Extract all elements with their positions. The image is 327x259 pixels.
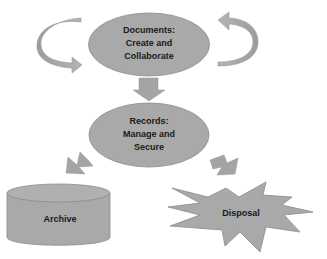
disposal-node: Disposal <box>168 182 313 252</box>
archive-node: Archive <box>7 184 110 245</box>
records-label-line3: Secure <box>134 142 164 152</box>
records-node: Records: Manage and Secure <box>89 103 209 167</box>
documents-node: Documents: Create and Collaborate <box>89 13 210 76</box>
curved-arrow-right-icon <box>218 12 258 66</box>
documents-label-line2: Create and <box>126 38 173 48</box>
curved-arrow-left-icon <box>37 18 82 73</box>
archive-label: Archive <box>43 214 76 224</box>
arrow-down-icon <box>133 78 165 101</box>
records-label-line2: Manage and <box>123 129 175 139</box>
documents-label-line1: Documents: <box>123 25 175 35</box>
arrow-down-left-icon <box>66 152 93 174</box>
documents-label-line3: Collaborate <box>124 51 174 61</box>
records-lifecycle-diagram: Documents: Create and Collaborate Record… <box>0 0 327 259</box>
records-label-line1: Records: <box>129 116 168 126</box>
disposal-label: Disposal <box>222 208 260 218</box>
arrow-down-right-icon <box>210 155 238 175</box>
